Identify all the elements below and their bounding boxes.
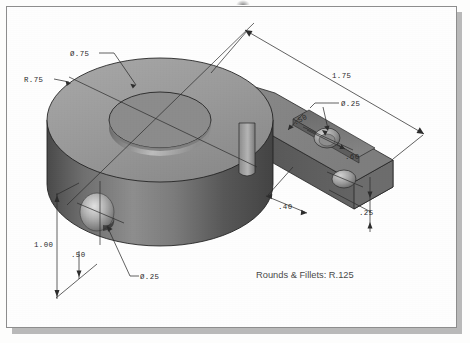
dim-label-slot-position: .40 xyxy=(278,203,293,211)
dim-label-arm-hole-dia: Ø.25 xyxy=(341,100,360,108)
overall-height-ext-bottom xyxy=(56,264,97,298)
arm-thickness-arrow-bottom xyxy=(368,222,373,228)
dim-label-boss-radius: R.75 xyxy=(24,76,43,84)
side-hole-height-arrow xyxy=(77,270,82,277)
figure-frame: Ø.75 R.75 1.75 Ø.25 .50 .60 .40 .25 1.00… xyxy=(6,6,457,328)
dim-label-hole-offset: .60 xyxy=(345,153,360,161)
dim-label-side-hole-ht: .50 xyxy=(71,251,86,259)
isometric-part-drawing: Ø.75 R.75 1.75 Ø.25 .50 .60 .40 .25 1.00… xyxy=(7,7,457,328)
scanned-drawing-page: Ø.75 R.75 1.75 Ø.25 .50 .60 .40 .25 1.00… xyxy=(0,0,470,343)
dim-label-overall-height: 1.00 xyxy=(34,241,53,249)
slot-position-arrow-r xyxy=(301,210,307,215)
dim-label-arm-thickness: .25 xyxy=(359,209,374,217)
scan-artifact-speck xyxy=(236,0,250,5)
dim-label-overall-length: 1.75 xyxy=(332,72,351,80)
dim-label-side-hole-dia: Ø.25 xyxy=(140,273,159,281)
overall-length-ext-left xyxy=(211,31,247,73)
arm-hole-dia-leader xyxy=(310,103,339,108)
rounds-and-fillets-note: Rounds & Fillets: R.125 xyxy=(256,270,354,280)
overall-length-ext-right xyxy=(393,135,423,159)
bore-top-opening xyxy=(109,92,211,148)
dim-label-bore-dia: Ø.75 xyxy=(70,50,89,58)
boss-arm-notch xyxy=(239,123,255,176)
